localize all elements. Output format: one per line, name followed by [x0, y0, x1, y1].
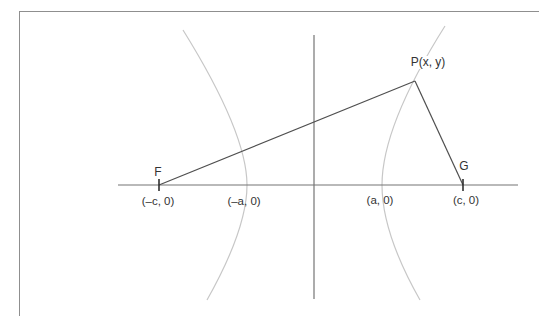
segment-fp [159, 81, 415, 185]
hyperbola-figure [0, 0, 539, 316]
point-p-label: P(x, y) [409, 56, 448, 69]
coord-label-pos-a: (a, 0) [367, 194, 394, 207]
coord-label-pos-c: (c, 0) [453, 194, 479, 207]
focus-f-label: F [154, 166, 161, 179]
segment-pg [415, 81, 463, 185]
focus-g-label: G [459, 160, 468, 173]
hyperbola-left-branch [183, 30, 247, 300]
figure-canvas: P(x, y) F G (–c, 0) (–a, 0) (a, 0) (c, 0… [0, 0, 539, 316]
coord-label-neg-a: (–a, 0) [227, 195, 260, 208]
coord-label-neg-c: (–c, 0) [142, 195, 175, 208]
